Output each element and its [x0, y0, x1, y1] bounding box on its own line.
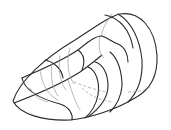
section-arc-8 — [105, 15, 133, 48]
figure-canvas — [0, 0, 171, 130]
section-arc-1 — [22, 78, 72, 120]
hidden-arc-3 — [59, 56, 66, 90]
hidden-dash-1 — [74, 82, 106, 92]
hidden-arc-7 — [68, 80, 80, 110]
ridge-curve — [22, 36, 128, 78]
section-arc-2 — [45, 60, 63, 78]
section-arc-3 — [78, 50, 84, 70]
outer-contour — [13, 14, 157, 120]
section-arc-6 — [110, 52, 122, 112]
shell-surface-drawing — [0, 0, 171, 130]
